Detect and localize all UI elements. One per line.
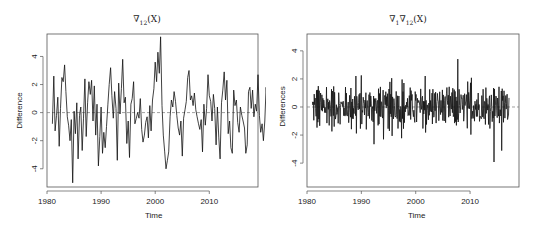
right-data-series [312, 59, 509, 162]
left-x-tick-label: 1980 [38, 197, 56, 206]
right-y-tick-label: -4 [290, 159, 299, 167]
left-data-series [52, 37, 266, 183]
right-plot-area: 1980199020002010-4-2024 [263, 0, 533, 232]
left-chart-panel: ∇12(X) Difference Time 1980199020002010-… [0, 0, 266, 232]
left-y-tick-label: -4 [30, 165, 39, 173]
right-chart-panel: ∇1∇12(X) Differences Time 19801990200020… [263, 0, 533, 232]
left-y-tick-label: -2 [30, 137, 39, 145]
right-x-tick-label: 1980 [298, 197, 316, 206]
left-plot-frame [47, 34, 258, 187]
left-x-tick-label: 2000 [146, 197, 164, 206]
left-y-tick-label: 4 [30, 54, 39, 59]
right-x-tick-label: 1990 [352, 197, 370, 206]
left-y-tick-label: 0 [30, 110, 39, 115]
right-y-tick-label: 0 [290, 104, 299, 109]
left-x-tick-label: 1990 [92, 197, 110, 206]
right-y-tick-label: 4 [290, 48, 299, 53]
right-y-tick-label: 2 [290, 76, 299, 81]
right-x-tick-label: 2000 [407, 197, 425, 206]
right-x-tick-label: 2010 [461, 197, 479, 206]
right-y-tick-label: -2 [290, 131, 299, 139]
left-plot-area: 1980199020002010-4-2024 [0, 0, 266, 232]
left-y-tick-label: 2 [30, 82, 39, 87]
left-x-tick-label: 2010 [200, 197, 218, 206]
